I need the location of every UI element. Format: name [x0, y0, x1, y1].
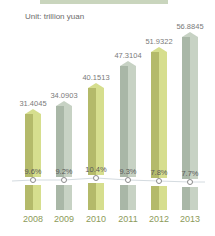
growth-point — [156, 178, 162, 184]
growth-point — [187, 179, 193, 185]
growth-point — [61, 177, 67, 183]
growth-label: 7.8% — [144, 168, 174, 177]
growth-label: 9.3% — [113, 167, 143, 176]
growth-label: 9.6% — [18, 167, 48, 176]
growth-rate-line — [0, 0, 215, 236]
bar-chart: 31.4045200834.0903200940.1513201047.3104… — [0, 0, 215, 236]
growth-point — [30, 177, 36, 183]
growth-label: 10.4% — [81, 165, 111, 174]
growth-label: 7.7% — [175, 169, 205, 178]
growth-point — [125, 177, 131, 183]
growth-point — [93, 175, 99, 181]
growth-label: 9.2% — [49, 167, 79, 176]
